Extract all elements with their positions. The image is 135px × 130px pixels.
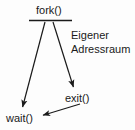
arrow-fork-to-wait bbox=[23, 22, 45, 107]
node-label-exit: exit() bbox=[65, 92, 89, 104]
annotation-line-2: Adressraum bbox=[71, 43, 130, 55]
address-space-annotation: Eigener Adressraum bbox=[71, 29, 130, 55]
diagram-canvas bbox=[0, 0, 135, 130]
arrow-exit-to-wait bbox=[43, 104, 80, 115]
annotation-line-1: Eigener bbox=[71, 29, 130, 41]
node-label-fork: fork() bbox=[36, 4, 62, 16]
node-label-wait: wait() bbox=[6, 112, 33, 124]
fork-process-diagram: fork() exit() wait() Eigener Adressraum bbox=[0, 0, 135, 130]
